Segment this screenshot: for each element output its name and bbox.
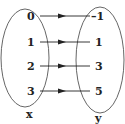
mapping-diagram: 0 1 2 3 –1 1 3 5 x y: [0, 0, 125, 124]
mapping-arrow: [40, 64, 90, 69]
domain-ellipse: [1, 9, 49, 107]
domain-value: 1: [27, 36, 35, 49]
range-value: 5: [95, 85, 103, 98]
mapping-arrow: [40, 14, 90, 19]
mapping-arrow: [40, 89, 90, 94]
domain-value: 2: [27, 60, 35, 73]
domain-value: 0: [27, 10, 35, 23]
range-value: 1: [95, 36, 103, 49]
domain-label: x: [26, 108, 33, 121]
range-label: y: [94, 112, 102, 124]
domain-value: 3: [27, 85, 35, 98]
range-value: –1: [91, 10, 104, 23]
range-value: 3: [95, 60, 103, 73]
